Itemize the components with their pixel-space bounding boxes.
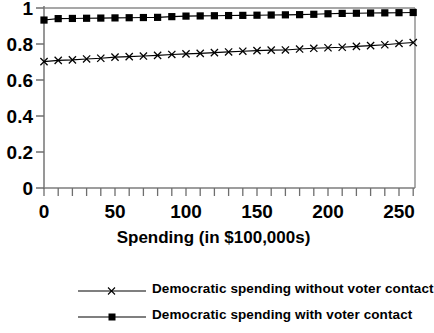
y-axis-ticks bbox=[36, 8, 44, 188]
y-tick-label: 1 bbox=[0, 0, 33, 18]
x-tick-label: 0 bbox=[14, 202, 74, 221]
legend-label: Democratic spending with voter contact bbox=[152, 307, 412, 322]
legend-item-without-voter-contact: Democratic spending without voter contac… bbox=[0, 278, 427, 304]
legend-sample-x-marker bbox=[78, 278, 146, 304]
plot-frame bbox=[43, 6, 415, 189]
y-tick-label: 0 bbox=[0, 179, 33, 198]
x-tick-label: 250 bbox=[369, 202, 429, 221]
x-axis-ticks bbox=[44, 188, 413, 196]
legend-sample-square-marker bbox=[78, 304, 146, 330]
series-without-voter-contact bbox=[40, 39, 416, 65]
legend-item-with-voter-contact: Democratic spending with voter contact bbox=[0, 304, 427, 330]
x-axis-label: Spending (in $100,000s) bbox=[0, 228, 427, 248]
data-series-layer bbox=[40, 9, 416, 65]
series-with-voter-contact bbox=[40, 9, 416, 24]
y-tick-label: 0.2 bbox=[0, 143, 33, 162]
x-tick-label: 200 bbox=[298, 202, 358, 221]
x-tick-label: 50 bbox=[85, 202, 145, 221]
y-tick-label: 0.8 bbox=[0, 35, 33, 54]
chart-legend: Democratic spending without voter contac… bbox=[0, 278, 427, 330]
y-tick-label: 0.4 bbox=[0, 107, 33, 126]
y-tick-label: 0.6 bbox=[0, 71, 33, 90]
x-tick-label: 150 bbox=[227, 202, 287, 221]
legend-label: Democratic spending without voter contac… bbox=[152, 281, 434, 296]
x-tick-label: 100 bbox=[156, 202, 216, 221]
